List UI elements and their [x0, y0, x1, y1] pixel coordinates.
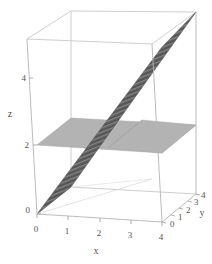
box-edge-top-front: [27, 39, 152, 44]
z-tick-label-4: 4: [22, 73, 27, 83]
x-tick-label-4: 4: [159, 232, 164, 242]
y-tick-label-0: 0: [170, 219, 175, 229]
x-axis-ticks: [37, 214, 162, 226]
y-tick-3: [188, 201, 192, 202]
y-tick-2: [179, 208, 183, 209]
box-edge-bottom-back: [71, 187, 196, 194]
y-tick-1: [171, 215, 175, 216]
y-tick-4: [196, 194, 200, 195]
y-tick-label-2: 2: [186, 205, 191, 215]
y-tick-0: [162, 222, 166, 223]
y-tick-label-4: 4: [201, 190, 206, 200]
x-tick-label-1: 1: [65, 226, 70, 236]
y-tick-label-3: 3: [194, 197, 199, 207]
x-tick-label-0: 0: [34, 224, 39, 234]
plot-canvas: 0 2 4 z 0 1 2 3 4 x 0: [0, 0, 212, 264]
z-axis-label: z: [8, 108, 13, 119]
box-edge-top-left-back: [27, 11, 71, 39]
x-axis-tick-labels: 0 1 2 3 4: [34, 224, 164, 242]
box-edge-top-back: [71, 11, 196, 12]
box-edge-bottom-front: [37, 214, 162, 222]
y-tick-label-1: 1: [178, 212, 183, 222]
x-tick-label-3: 3: [128, 230, 133, 240]
y-axis-label: y: [200, 207, 205, 218]
z-tick-label-0: 0: [26, 205, 31, 215]
x-axis-label: x: [94, 245, 99, 256]
z-tick-label-2: 2: [25, 140, 30, 150]
box-edge-vertical-left-front: [27, 39, 37, 214]
x-tick-label-2: 2: [97, 228, 102, 238]
z-axis-tick-labels: 0 2 4: [22, 73, 31, 215]
plot-3d-figure: 0 2 4 z 0 1 2 3 4 x 0: [0, 0, 212, 264]
